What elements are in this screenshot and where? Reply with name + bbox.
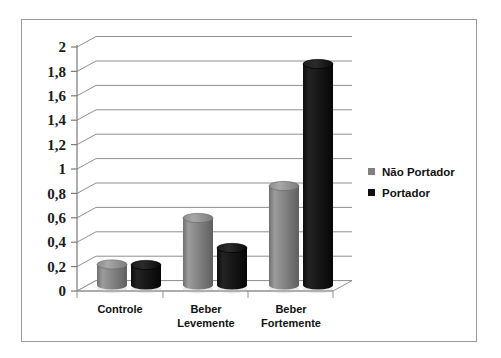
y-tick-label: 1,6 <box>47 88 66 104</box>
legend-label-portador: Portador <box>382 187 430 199</box>
y-tick-label: 1 <box>59 161 67 177</box>
y-tick-label: 1,2 <box>47 137 66 153</box>
y-axis <box>71 45 77 292</box>
y-tick-label: 0,2 <box>47 259 66 275</box>
x-category-label-controle: Controle <box>97 303 142 315</box>
x-axis-category-labels: Controle Beber Levemente Beber Fortement… <box>97 303 321 329</box>
bar-group-beber-fortemente <box>269 59 333 293</box>
legend-item-nao-portador[interactable]: Não Portador <box>368 166 455 178</box>
y-tick-label: 0,8 <box>47 186 66 202</box>
legend-item-portador[interactable]: Portador <box>368 187 430 199</box>
x-category-label-beber-fortemente-line2: Fortemente <box>261 317 321 329</box>
x-category-label-beber-fortemente-line1: Beber <box>275 303 307 315</box>
bar-controle-nao-portador[interactable] <box>97 260 127 290</box>
legend: Não Portador Portador <box>368 166 455 199</box>
bar-beber-levemente-portador[interactable] <box>217 243 247 289</box>
bar-beber-levemente-nao-portador[interactable] <box>183 213 213 289</box>
x-category-label-beber-levemente-line2: Levemente <box>177 317 234 329</box>
bar-chart-3d: 2 1,8 1,6 1,4 1,2 1 0,8 0,6 0,4 0,2 0 <box>0 0 501 358</box>
bar-beber-fortemente-portador[interactable] <box>303 59 333 289</box>
legend-marker-portador <box>368 189 375 196</box>
chart-container: 2 1,8 1,6 1,4 1,2 1 0,8 0,6 0,4 0,2 0 <box>0 0 501 358</box>
y-axis-tick-labels: 2 1,8 1,6 1,4 1,2 1 0,8 0,6 0,4 0,2 0 <box>47 39 66 299</box>
y-tick-label: 1,8 <box>47 64 66 80</box>
bar-controle-portador[interactable] <box>131 260 161 289</box>
y-tick-label: 0,4 <box>47 234 66 250</box>
x-category-label-beber-levemente-line1: Beber <box>190 303 222 315</box>
legend-label-nao-portador: Não Portador <box>382 166 455 178</box>
bar-beber-fortemente-nao-portador[interactable] <box>269 181 299 289</box>
y-tick-label: 0,6 <box>47 210 66 226</box>
y-tick-label: 1,4 <box>47 112 66 128</box>
y-tick-label: 0 <box>59 283 67 299</box>
y-tick-label: 2 <box>59 39 67 55</box>
legend-marker-nao-portador <box>368 168 375 175</box>
